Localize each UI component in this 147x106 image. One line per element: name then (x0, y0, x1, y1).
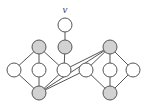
vertex-mid-upper[interactable] (58, 40, 72, 54)
label-layer: v (63, 3, 68, 15)
vertex-left-bottom[interactable] (32, 86, 46, 100)
vertex-right-right[interactable] (126, 63, 140, 77)
vertex-left-right[interactable] (57, 63, 71, 77)
node-layer (7, 18, 140, 100)
edge-ll-lb (19, 75, 34, 89)
vertex-left-left[interactable] (7, 63, 21, 77)
vertex-v[interactable] (58, 18, 72, 32)
vertex-right-center[interactable] (103, 63, 117, 77)
vertex-left-top[interactable] (32, 40, 46, 54)
graph-canvas: v (0, 0, 147, 106)
graph-figure: v (0, 0, 147, 106)
vertex-right-left[interactable] (79, 63, 93, 77)
label-v: v (63, 3, 68, 15)
edge-lt-lr (44, 52, 59, 66)
vertex-right-bottom[interactable] (103, 86, 117, 100)
vertex-right-top[interactable] (103, 40, 117, 54)
edge-rl-rb (91, 75, 105, 88)
edge-rt-rr (115, 52, 128, 65)
edge-lt-ll (19, 52, 34, 66)
edge-lb-rt (45, 51, 104, 89)
edge-rr-rb (115, 75, 128, 88)
vertex-left-center[interactable] (32, 63, 46, 77)
